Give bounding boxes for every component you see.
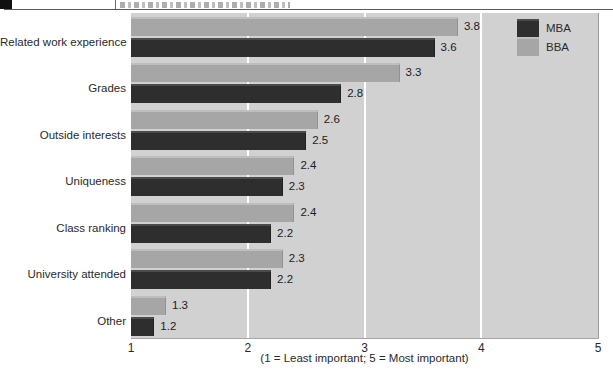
legend-label-mba: MBA	[546, 22, 571, 35]
category-label-0: Related work experience	[0, 35, 126, 49]
gridline-x3	[364, 13, 366, 338]
category-label-5: University attended	[0, 267, 126, 281]
gridline-x2	[247, 13, 249, 338]
value-label-bba-4: 2.4	[300, 206, 316, 219]
bar-mba-6	[131, 317, 154, 336]
value-label-mba-1: 2.8	[347, 87, 363, 100]
bar-bba-5	[131, 249, 283, 268]
header-rule	[4, 9, 613, 10]
bar-bba-4	[131, 203, 294, 222]
value-label-bba-5: 2.3	[289, 252, 305, 265]
bar-bba-1	[131, 63, 400, 82]
value-label-bba-1: 3.3	[406, 66, 422, 79]
value-label-mba-5: 2.2	[277, 273, 293, 286]
category-label-3: Uniqueness	[0, 174, 126, 188]
bar-bba-6	[131, 296, 166, 315]
figure-canvas: 3.83.63.32.82.62.52.42.32.42.22.32.21.31…	[0, 0, 613, 375]
category-label-2: Outside interests	[0, 128, 126, 142]
bar-mba-3	[131, 177, 283, 196]
bar-bba-2	[131, 110, 318, 129]
clipped-header-text	[120, 2, 290, 8]
category-label-1: Grades	[0, 81, 126, 95]
x-axis-caption: (1 = Least important; 5 = Most important…	[131, 352, 598, 364]
bar-mba-4	[131, 224, 271, 243]
category-label-4: Class ranking	[0, 221, 126, 235]
bar-bba-3	[131, 156, 294, 175]
legend-label-bba: BBA	[546, 41, 569, 54]
bar-mba-2	[131, 131, 306, 150]
bar-mba-1	[131, 84, 341, 103]
value-label-mba-3: 2.3	[289, 180, 305, 193]
bar-mba-5	[131, 270, 271, 289]
value-label-bba-2: 2.6	[324, 113, 340, 126]
bar-bba-0	[131, 17, 458, 36]
figure-number-box	[0, 0, 12, 9]
value-label-mba-2: 2.5	[312, 134, 328, 147]
legend-swatch-mba	[517, 19, 539, 37]
bar-mba-0	[131, 38, 435, 57]
value-label-bba-0: 3.8	[464, 20, 480, 33]
legend-swatch-bba	[517, 37, 539, 56]
category-label-6: Other	[0, 314, 126, 328]
value-label-bba-6: 1.3	[172, 299, 188, 312]
value-label-mba-0: 3.6	[441, 41, 457, 54]
value-label-mba-4: 2.2	[277, 227, 293, 240]
gridline-x4	[480, 13, 482, 338]
value-label-bba-3: 2.4	[300, 159, 316, 172]
plot-area: 3.83.63.32.82.62.52.42.32.42.22.32.21.31…	[131, 13, 599, 339]
value-label-mba-6: 1.2	[160, 320, 176, 333]
